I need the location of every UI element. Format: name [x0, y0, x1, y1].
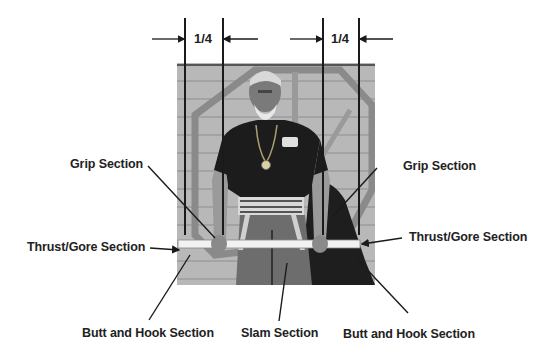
- label-slam: Slam Section: [241, 326, 318, 340]
- measurement-label-right: 1/4: [331, 31, 349, 46]
- diagram-canvas: 1/4 1/4 Grip Section Grip Section Thrust…: [0, 0, 552, 360]
- label-thrust-right: Thrust/Gore Section: [409, 230, 527, 244]
- label-butt-hook-left: Butt and Hook Section: [82, 326, 214, 340]
- label-butt-hook-right: Butt and Hook Section: [343, 327, 475, 341]
- annotated-photo: [0, 0, 552, 360]
- label-grip-left: Grip Section: [70, 157, 143, 171]
- label-thrust-left: Thrust/Gore Section: [27, 240, 145, 254]
- label-grip-right: Grip Section: [403, 159, 476, 173]
- measurement-label-left: 1/4: [194, 31, 212, 46]
- photo: [177, 63, 375, 285]
